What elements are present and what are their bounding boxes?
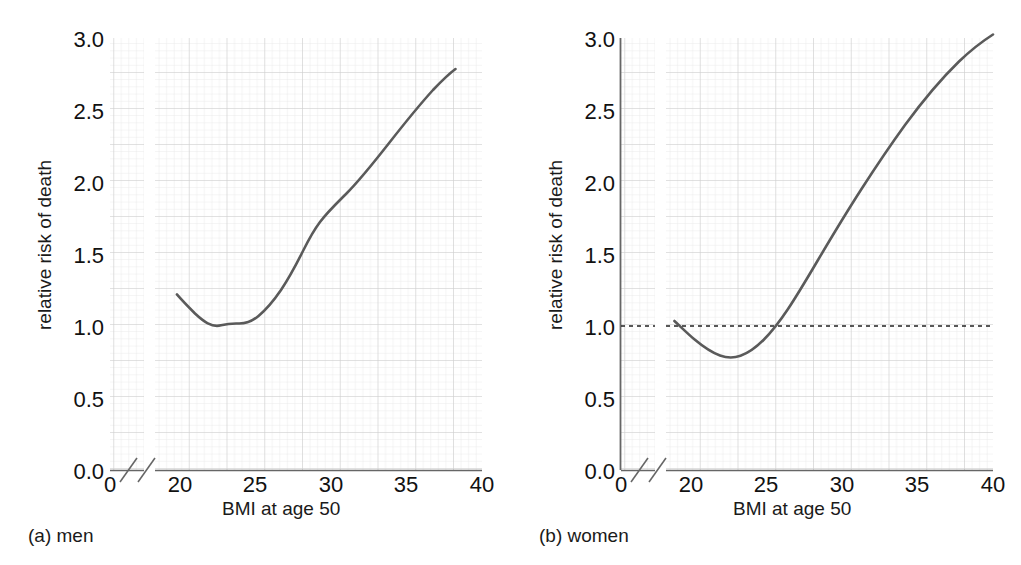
x-tick-30: 30 [812, 472, 872, 498]
panel-caption-a: (a) men [28, 525, 93, 547]
panel-caption-b: (b) women [539, 525, 629, 547]
y-tick-0.5: 0.5 [557, 387, 615, 413]
x-axis-title: BMI at age 50 [222, 498, 340, 520]
x-tick-25: 25 [225, 472, 285, 498]
y-axis-title: relative risk of death [34, 160, 56, 330]
axis-break-strip-grid [110, 38, 144, 470]
chart-panel-women: 3.0 2.5 2.0 1.5 1.0 0.5 0.0 0 20 25 30 3… [511, 0, 1021, 565]
x-tick-35: 35 [887, 472, 947, 498]
y-tick-2.5: 2.5 [46, 99, 104, 125]
x-tick-40: 40 [963, 472, 1021, 498]
main-grid [155, 38, 482, 470]
y-tick-3.0: 3.0 [46, 27, 104, 53]
x-tick-0: 0 [95, 472, 125, 498]
x-tick-20: 20 [661, 472, 721, 498]
x-axis-title: BMI at age 50 [733, 498, 851, 520]
main-grid [666, 38, 993, 470]
x-tick-0: 0 [606, 472, 636, 498]
y-tick-0.5: 0.5 [46, 387, 104, 413]
x-tick-25: 25 [736, 472, 796, 498]
x-tick-30: 30 [301, 472, 361, 498]
x-tick-40: 40 [452, 472, 512, 498]
x-tick-20: 20 [150, 472, 210, 498]
axis-break-strip-grid [621, 38, 655, 470]
y-axis-title: relative risk of death [545, 160, 567, 330]
y-tick-3.0: 3.0 [557, 27, 615, 53]
y-tick-2.5: 2.5 [557, 99, 615, 125]
chart-panel-men: 3.0 2.5 2.0 1.5 1.0 0.5 0.0 0 20 25 30 3… [0, 0, 510, 565]
x-tick-35: 35 [376, 472, 436, 498]
